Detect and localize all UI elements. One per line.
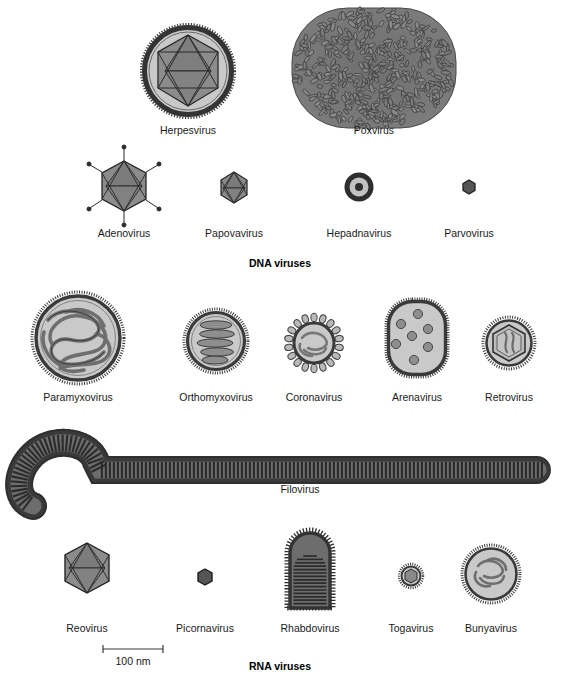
virus-label-togavirus: Togavirus: [389, 622, 434, 634]
picornavirus-capsid: [198, 569, 212, 585]
parvovirus-capsid: [463, 180, 475, 194]
virus-label-papovavirus: Papovavirus: [205, 227, 263, 239]
togavirus-core: [405, 569, 417, 583]
virus-label-reovirus: Reovirus: [66, 622, 107, 634]
virus-label-retrovirus: Retrovirus: [485, 391, 533, 403]
rhabdovirus-striations: [294, 556, 327, 604]
hepadnavirus-core: [355, 183, 363, 191]
poxvirus-body: [292, 6, 456, 131]
virus-label-adenovirus: Adenovirus: [98, 227, 151, 239]
virus-label-herpesvirus: Herpesvirus: [160, 124, 216, 136]
virus-label-paramyxovirus: Paramyxovirus: [43, 391, 112, 403]
virus-poxvirus: Poxvirus: [292, 6, 456, 136]
virus-label-poxvirus: Poxvirus: [354, 124, 394, 136]
virus-label-bunyavirus: Bunyavirus: [465, 622, 517, 634]
scale-bar-label: 100 nm: [115, 655, 150, 667]
virus-label-picornavirus: Picornavirus: [176, 622, 234, 634]
virus-label-parvovirus: Parvovirus: [444, 227, 494, 239]
virus-label-orthomyxovirus: Orthomyxovirus: [179, 391, 253, 403]
virus-label-coronavirus: Coronavirus: [286, 391, 343, 403]
section-label-rna-viruses: RNA viruses: [249, 660, 311, 672]
virus-label-rhabdovirus: Rhabdovirus: [281, 622, 340, 634]
virus-morphology-figure: Herpesvirus Poxvirus: [0, 0, 561, 686]
section-label-dna-viruses: DNA viruses: [249, 257, 311, 269]
virus-label-hepadnavirus: Hepadnavirus: [327, 227, 392, 239]
virus-label-arenavirus: Arenavirus: [392, 391, 442, 403]
virus-label-filovirus: Filovirus: [280, 483, 319, 495]
retrovirus-core: [493, 325, 525, 361]
